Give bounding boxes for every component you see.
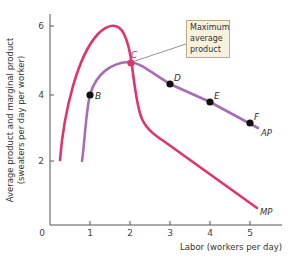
y-axis-title-line1: Average product and marginal product <box>5 37 15 202</box>
x-tick-label-0: 0 <box>39 228 45 238</box>
point-label-d: D <box>174 73 181 83</box>
point-e <box>206 98 213 105</box>
point-label-c: C <box>131 50 138 60</box>
point-label-e: E <box>214 91 220 101</box>
y-tick-label-2: 2 <box>38 156 44 166</box>
ap-curve-label: AP <box>260 128 273 138</box>
point-f <box>246 119 253 126</box>
x-tick-label-4: 4 <box>207 228 213 238</box>
y-axis-title-line2: (sweaters per day per worker) <box>16 56 26 185</box>
point-d <box>166 80 173 87</box>
point-c <box>127 59 134 66</box>
annotation-leader-line <box>132 44 186 62</box>
x-tick-label-3: 3 <box>167 228 173 238</box>
x-tick-label-5: 5 <box>247 228 253 238</box>
annotation-maximum-average-product: Maximum average product <box>186 20 230 58</box>
point-b <box>86 91 93 98</box>
chart: 6 4 2 0 1 2 3 4 5 Labor (workers per day… <box>0 0 292 261</box>
annotation-line-3: product <box>190 44 227 55</box>
y-tick-label-4: 4 <box>38 90 44 100</box>
point-label-f: F <box>254 112 260 122</box>
y-tick-label-6: 6 <box>38 21 44 31</box>
axes <box>50 14 282 225</box>
point-label-b: B <box>95 91 101 101</box>
x-tick-label-2: 2 <box>127 228 133 238</box>
x-tick-label-1: 1 <box>87 228 93 238</box>
mp-curve-label: MP <box>260 207 273 217</box>
annotation-line-2: average <box>190 33 227 44</box>
x-axis-title: Labor (workers per day) <box>180 242 282 252</box>
annotation-line-1: Maximum <box>190 22 227 33</box>
